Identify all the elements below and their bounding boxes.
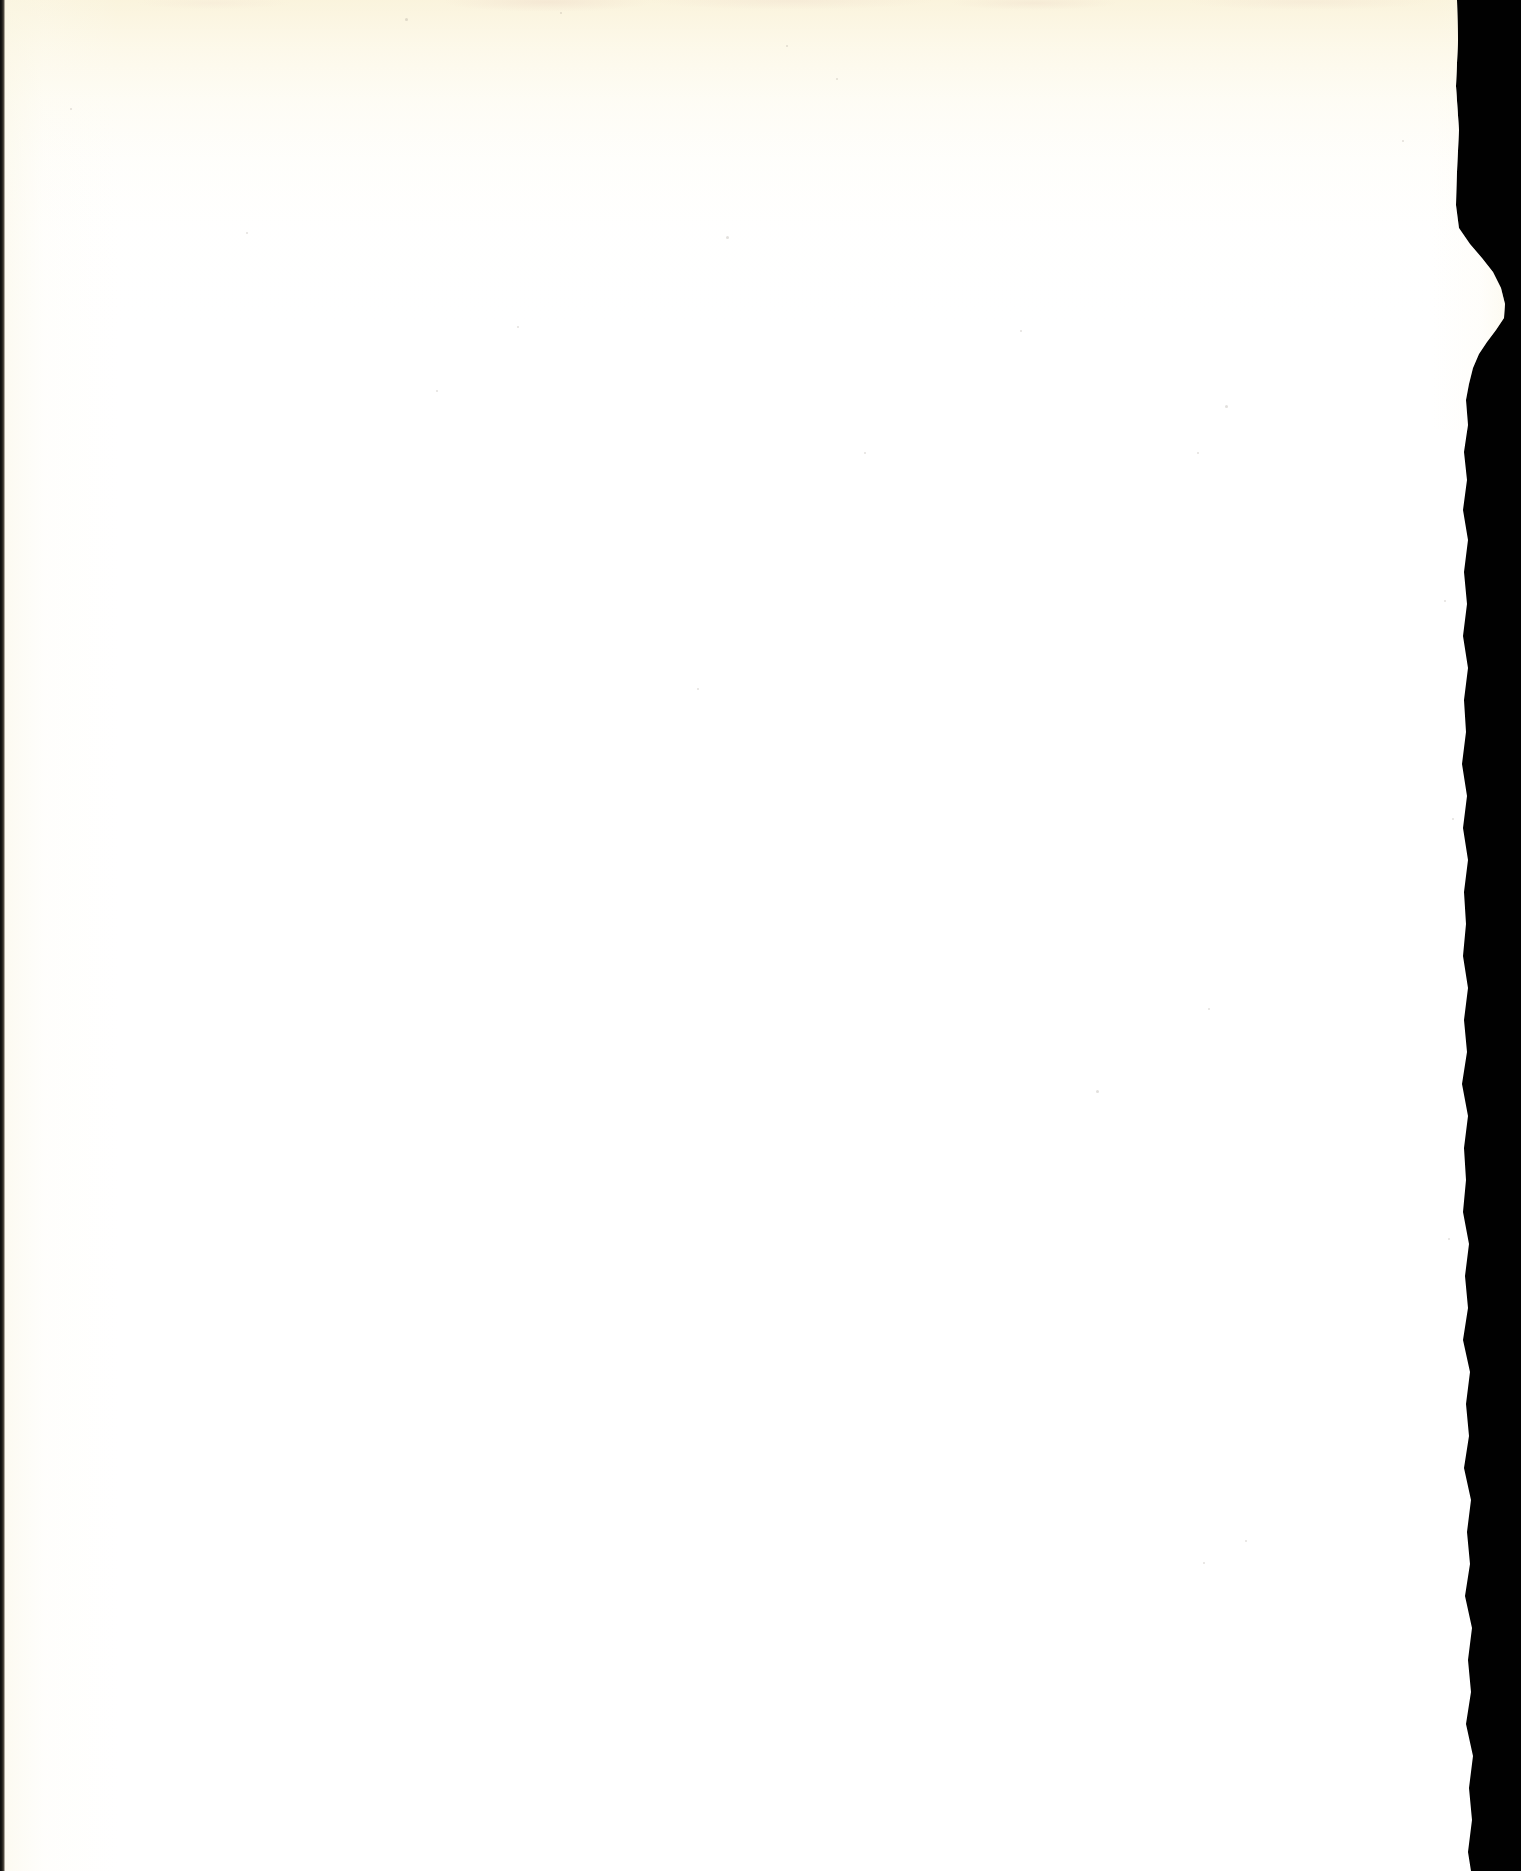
- scan-speckle: [436, 390, 438, 392]
- scan-speckle: [1245, 1540, 1247, 1542]
- scan-speckle: [836, 78, 838, 80]
- scan-speckle: [726, 236, 729, 239]
- scan-speckle: [70, 108, 72, 110]
- scanned-page-sheet: [0, 0, 1521, 1871]
- scan-canvas: [0, 0, 1521, 1871]
- scan-speckle: [786, 45, 788, 47]
- scan-speckle: [1448, 1238, 1450, 1240]
- scan-speckle: [1225, 405, 1228, 408]
- left-gutter-shadow: [0, 0, 5, 1871]
- scan-speckle: [1020, 330, 1022, 332]
- scan-speckle: [1197, 452, 1199, 454]
- scan-speckle: [517, 326, 519, 328]
- scan-speckle: [1203, 1562, 1205, 1564]
- scan-speckle: [1444, 600, 1446, 602]
- scan-speckle: [1208, 1008, 1210, 1010]
- paper-top-tint: [0, 0, 1521, 330]
- scan-speckle: [697, 688, 699, 690]
- scan-speckle: [1452, 818, 1454, 820]
- scan-speckle: [246, 232, 248, 234]
- scan-speckle: [1402, 140, 1404, 142]
- paper-left-tint: [0, 0, 120, 1871]
- scan-speckle: [1096, 1090, 1099, 1093]
- scan-speckle-layer: [0, 0, 1521, 1871]
- paper-top-mottling: [0, 0, 1521, 30]
- scan-speckle: [560, 12, 562, 14]
- scan-speckle: [864, 452, 866, 454]
- scan-speckle: [405, 18, 408, 21]
